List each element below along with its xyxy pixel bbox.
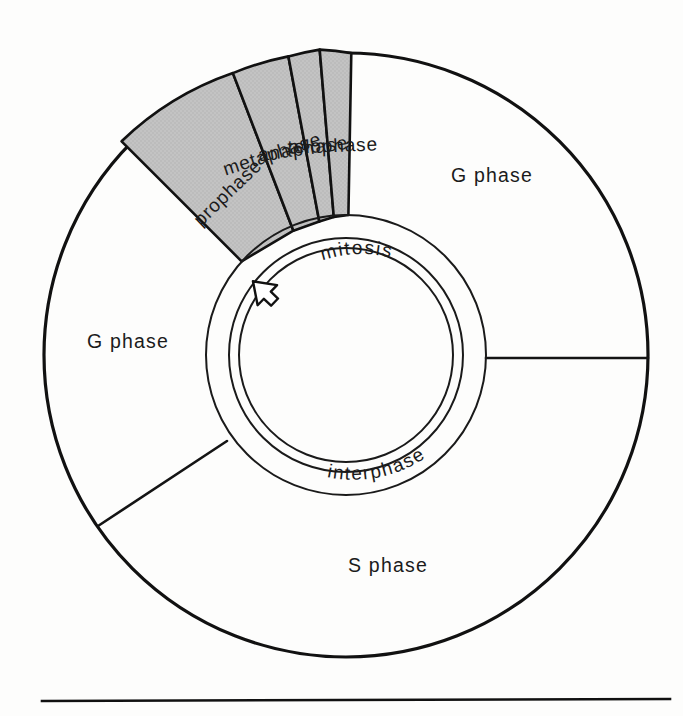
inner-ring-inner-circle	[239, 248, 453, 462]
cycle-direction-arrow-icon	[243, 271, 284, 312]
sector-label-g-phase-left: G phase	[87, 330, 169, 352]
sector-label-g-phase-right: G phase	[451, 164, 533, 186]
inner-ring-label-mitosis: mitosis	[318, 237, 395, 264]
divider-s-to-g	[98, 441, 227, 526]
wedge-label-telophase: telophase	[287, 133, 378, 157]
cell-cycle-diagram: G phase G phase S phase prophase metapha…	[0, 0, 683, 716]
inner-ring-middle-circle	[229, 238, 463, 472]
bottom-rule	[42, 699, 670, 701]
sector-label-s-phase: S phase	[348, 554, 428, 576]
cell-cycle-figure: G phase G phase S phase prophase metapha…	[0, 0, 683, 716]
